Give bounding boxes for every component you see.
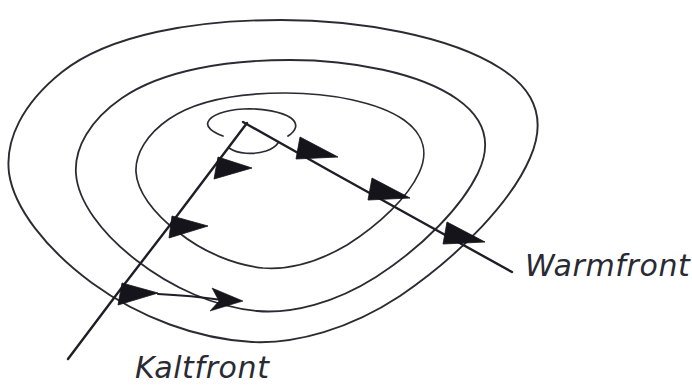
cold-front-barb-3 <box>118 283 158 305</box>
warm-front-barb-2 <box>368 178 410 200</box>
cold-front-label: Kaltfront <box>135 350 270 385</box>
isobar-second <box>76 60 485 311</box>
isobar-outer <box>8 20 537 342</box>
warm-front-barb-3 <box>443 222 485 244</box>
cold-front-group <box>68 123 252 359</box>
warm-front-label: Warmfront <box>525 248 691 283</box>
cold-front-barb-1 <box>214 157 252 179</box>
isobar-center-arc <box>229 143 278 153</box>
warm-front-barb-1 <box>296 137 338 159</box>
warm-front-group <box>243 122 512 272</box>
weather-diagram-canvas: Warmfront Kaltfront <box>0 0 692 390</box>
cold-front-barb-2 <box>169 216 208 238</box>
isobar-third <box>136 93 424 268</box>
movement-arrow-group <box>158 288 243 311</box>
weather-diagram: Warmfront Kaltfront <box>0 0 692 390</box>
isobar-inner <box>208 109 296 136</box>
isobar-group <box>8 20 537 342</box>
